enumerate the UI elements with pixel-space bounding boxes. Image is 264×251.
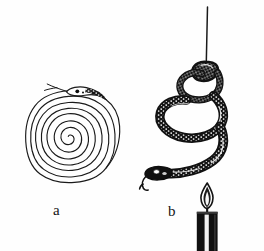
panel-b-snake-tongue xyxy=(140,177,149,191)
panel-a-snake-head xyxy=(45,84,107,100)
panel-b-snake-head xyxy=(140,166,173,190)
panel-b-hanging-snake xyxy=(140,7,224,251)
candle xyxy=(197,183,218,251)
suspension-thread xyxy=(206,7,207,62)
illustration-canvas xyxy=(0,0,264,251)
panel-a-spiral-snake xyxy=(26,84,120,183)
panel-a-snake-eye xyxy=(75,89,79,93)
candle-highlight xyxy=(205,215,209,251)
panel-label-a: a xyxy=(53,203,60,218)
spiral-body xyxy=(26,91,120,183)
panel-b-snake-eye xyxy=(154,170,160,174)
panel-label-b: b xyxy=(168,204,176,219)
candle-flame xyxy=(201,183,213,209)
figure-root: a b xyxy=(0,0,264,251)
panel-a-snake-tongue xyxy=(45,84,67,91)
